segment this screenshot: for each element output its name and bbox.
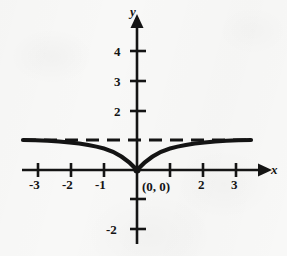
origin-point-marker xyxy=(133,166,140,173)
x-tick-label-neg3: -3 xyxy=(29,178,40,191)
x-tick-label-neg1: -1 xyxy=(95,178,106,191)
y-tick-label-3: 3 xyxy=(114,75,121,88)
y-axis xyxy=(131,14,144,244)
y-axis-label: y xyxy=(130,5,136,18)
origin-point-label: (0, 0) xyxy=(142,180,170,193)
x-axis-arrowhead xyxy=(258,164,272,177)
x-tick-label-neg2: -2 xyxy=(62,178,73,191)
y-tick-label-neg2: -2 xyxy=(106,223,117,236)
y-tick-label-4: 4 xyxy=(114,45,121,58)
y-tick-label-2: 2 xyxy=(114,105,121,118)
x-axis xyxy=(22,164,272,177)
x-tick-label-2: 2 xyxy=(198,178,205,191)
x-tick-label-3: 3 xyxy=(231,178,238,191)
graph-figure: y x -3 -2 -1 2 3 4 3 2 -2 (0, 0) xyxy=(0,0,287,256)
plot-area xyxy=(0,0,287,256)
x-axis-label: x xyxy=(271,163,278,176)
